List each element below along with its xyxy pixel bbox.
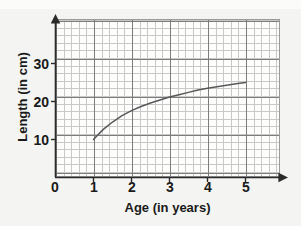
x-tick-label-5: 5 [236,180,256,194]
x-axis-title: Age (in years) [55,200,280,215]
y-axis-title: Length (in cm) [15,52,30,142]
data-curve-line [94,83,246,140]
y-axis-title-wrapper: Length (in cm) [13,27,31,167]
x-tick-label-3: 3 [160,180,180,194]
chart-figure: 0 1 2 3 4 5 10 20 30 Age (in years) Leng… [0,0,301,226]
x-tick-label-0: 0 [45,180,65,194]
x-tick-label-2: 2 [122,180,142,194]
x-tick-label-1: 1 [84,180,104,194]
x-tick-label-4: 4 [198,180,218,194]
